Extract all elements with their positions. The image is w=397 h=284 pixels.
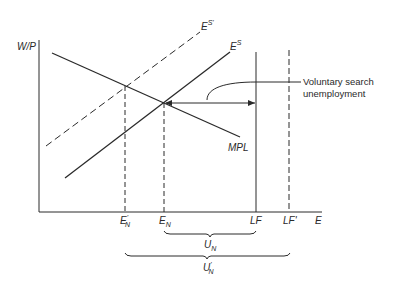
en-prime-label: E'N bbox=[120, 214, 131, 228]
labor-market-diagram: W/P E MPL ES ES' Voluntary search unempl… bbox=[0, 0, 397, 284]
supply-label: ES bbox=[230, 39, 242, 52]
lf-label: LF bbox=[250, 215, 263, 226]
annotation-line2: unemployment bbox=[303, 88, 366, 99]
mpl-label: MPL bbox=[228, 142, 249, 153]
y-axis-label: W/P bbox=[17, 41, 36, 52]
annotation-line1: Voluntary search bbox=[303, 76, 374, 87]
un-prime-label: U'N bbox=[203, 261, 215, 275]
en-label: EN bbox=[159, 215, 172, 228]
un-prime-brace bbox=[125, 253, 290, 259]
lf-prime-label: LF' bbox=[283, 215, 298, 226]
un-label: UN bbox=[204, 239, 217, 252]
x-axis-label: E bbox=[315, 215, 322, 226]
annotation-leader bbox=[207, 82, 301, 100]
shifted-supply-label: ES' bbox=[201, 19, 214, 32]
shifted-supply-curve bbox=[46, 32, 200, 146]
un-brace bbox=[164, 231, 256, 237]
